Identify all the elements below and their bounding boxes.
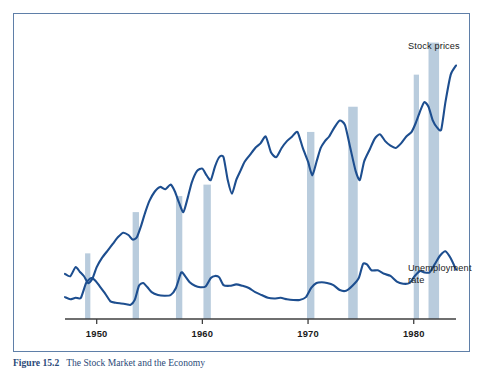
- x-axis-tick-label: 1980: [403, 328, 425, 339]
- figure-caption: Figure 15.2The Stock Market and the Econ…: [13, 357, 205, 368]
- chart-plot-area: [14, 14, 471, 353]
- stock-prices-label: Stock prices: [408, 41, 460, 53]
- unemployment-rate-line: [65, 251, 456, 305]
- x-axis-tick-label: 1960: [192, 328, 214, 339]
- figure-root: Stock prices Unemployment rate 195019601…: [0, 0, 484, 370]
- unemployment-rate-path: [65, 251, 456, 305]
- stock-prices-line: [65, 65, 456, 283]
- recession-band: [203, 185, 210, 319]
- caption-text: The Stock Market and the Economy: [66, 357, 205, 368]
- caption-number: Figure 15.2: [13, 357, 59, 368]
- recession-band: [176, 196, 182, 319]
- stock-prices-path: [65, 65, 456, 283]
- unemployment-rate-label: Unemployment rate: [408, 263, 472, 286]
- x-axis-tick-label: 1970: [297, 328, 319, 339]
- figure-frame: Stock prices Unemployment rate 195019601…: [13, 13, 470, 352]
- recession-bands-group: [85, 43, 439, 319]
- x-axis-tick-label: 1950: [86, 328, 108, 339]
- x-axis: [65, 319, 456, 324]
